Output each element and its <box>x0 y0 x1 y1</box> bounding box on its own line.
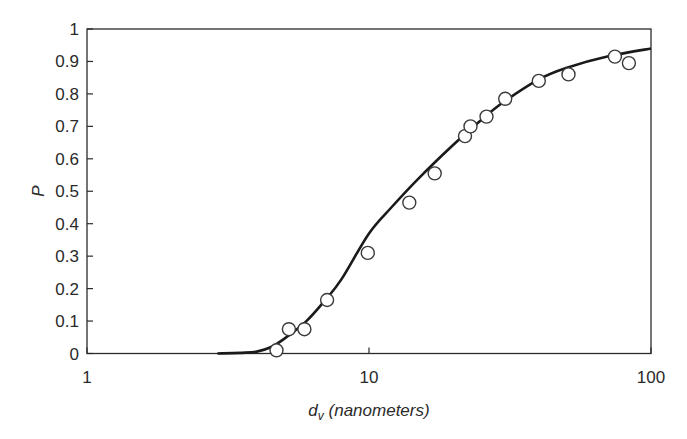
data-point <box>562 68 575 81</box>
x-axis-label-unit: (nanometers) <box>329 401 430 420</box>
data-point <box>361 246 374 259</box>
data-point <box>464 120 477 133</box>
data-point <box>608 50 621 63</box>
y-tick-label: 0.7 <box>55 117 79 136</box>
data-point <box>270 344 283 357</box>
y-tick-label: 0.5 <box>55 182 79 201</box>
x-axis-label: dv (nanometers) <box>308 401 429 423</box>
y-axis-label: P <box>29 185 48 197</box>
y-tick-label: 0.4 <box>55 215 79 234</box>
y-tick-label: 0.2 <box>55 280 79 299</box>
model-curve <box>217 49 651 354</box>
y-tick-label: 0.8 <box>55 85 79 104</box>
x-tick-label: 10 <box>360 368 379 387</box>
y-tick-label: 0.1 <box>55 312 79 331</box>
y-tick-label: 0.3 <box>55 247 79 266</box>
model-curve-line <box>217 49 651 354</box>
data-point <box>532 74 545 87</box>
y-tick-label: 1 <box>70 20 79 39</box>
data-point <box>403 196 416 209</box>
data-point <box>298 323 311 336</box>
data-point <box>428 167 441 180</box>
data-point <box>480 110 493 123</box>
data-point <box>499 92 512 105</box>
data-points <box>270 50 635 357</box>
data-point <box>622 57 635 70</box>
data-point <box>282 323 295 336</box>
x-tick-label: 1 <box>82 368 91 387</box>
chart: 00.10.20.30.40.50.60.70.80.91 110100 P d… <box>0 0 687 439</box>
y-tick-label: 0.6 <box>55 150 79 169</box>
data-point <box>321 294 334 307</box>
y-tick-label: 0.9 <box>55 52 79 71</box>
x-tick-label: 100 <box>637 368 665 387</box>
y-tick-label: 0 <box>70 345 79 364</box>
